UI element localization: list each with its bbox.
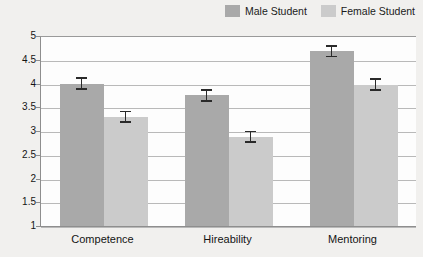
y-axis-tick-label: 2.5 xyxy=(4,150,36,160)
error-bar-cap xyxy=(120,111,131,113)
error-bar-cap xyxy=(120,121,131,123)
y-axis-tick-label: 4 xyxy=(4,79,36,89)
x-axis-line xyxy=(40,226,416,227)
gridline xyxy=(41,61,416,62)
bar-mentoring-female xyxy=(354,85,398,228)
legend-entry-female: Female Student xyxy=(321,5,415,17)
bar-hireability-female xyxy=(229,137,273,227)
error-bar-cap xyxy=(201,100,212,102)
plot-area xyxy=(40,36,416,227)
y-axis-tick-label: 5 xyxy=(4,31,36,41)
chart-legend: Male Student Female Student xyxy=(0,3,423,19)
legend-swatch-female-icon xyxy=(321,5,336,17)
x-axis-label-mentoring: Mentoring xyxy=(328,234,377,245)
error-bar-cap xyxy=(326,45,337,47)
y-axis-tick-label: 4.5 xyxy=(4,55,36,65)
legend-entry-male: Male Student xyxy=(225,5,307,17)
error-bar-cap xyxy=(370,78,381,80)
error-bar-cap xyxy=(370,89,381,91)
y-axis-tick-label: 2 xyxy=(4,174,36,184)
x-axis-label-hireability: Hireability xyxy=(203,234,251,245)
error-bar-cap xyxy=(76,77,87,79)
bar-competence-female xyxy=(104,117,148,227)
y-axis-tick-label: 1 xyxy=(4,221,36,231)
legend-swatch-male-icon xyxy=(225,5,240,17)
bar-mentoring-male xyxy=(310,51,354,227)
error-bar-cap xyxy=(326,56,337,58)
legend-label-male: Male Student xyxy=(245,6,307,17)
y-axis-tick-label: 3 xyxy=(4,126,36,136)
error-bar-cap xyxy=(245,131,256,133)
x-axis-label-competence: Competence xyxy=(71,234,133,245)
gridline xyxy=(41,227,416,228)
bar-competence-male xyxy=(60,84,104,227)
bar-chart: 54.543.532.521.51 CompetenceHireabilityM… xyxy=(0,22,423,257)
bar-hireability-male xyxy=(185,95,229,227)
y-axis-tick-label: 1.5 xyxy=(4,197,36,207)
error-bar-cap xyxy=(201,89,212,91)
error-bar-cap xyxy=(245,141,256,143)
error-bar-cap xyxy=(76,88,87,90)
legend-label-female: Female Student xyxy=(341,6,415,17)
y-axis-tick-label: 3.5 xyxy=(4,102,36,112)
